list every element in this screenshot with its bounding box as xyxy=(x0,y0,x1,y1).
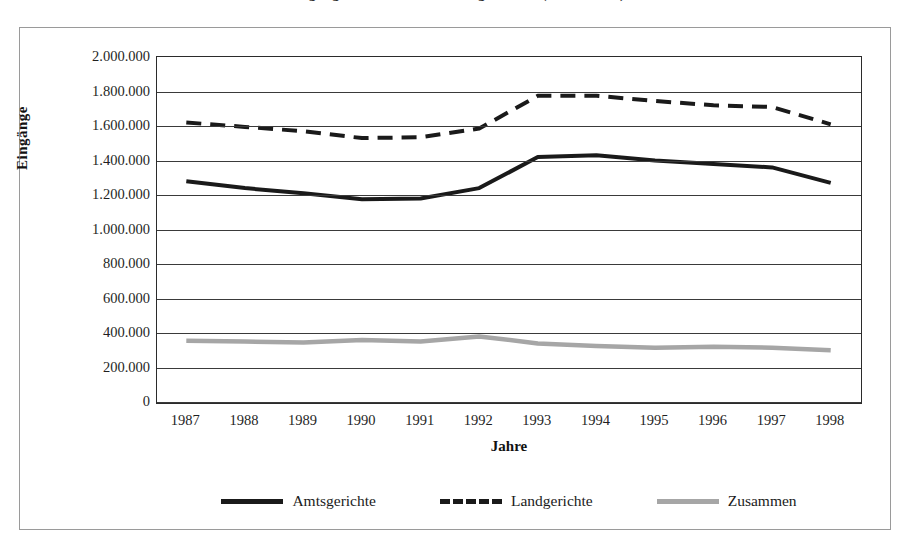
y-tick-mark xyxy=(200,229,207,230)
y-tick-label: 1.600.000 xyxy=(54,118,150,132)
y-axis-labels: 2.000.0001.800.0001.600.0001.400.0001.20… xyxy=(50,56,150,404)
page-title: Eingänge bei Amts- und Landgerichten (Zi… xyxy=(0,0,911,2)
legend-label: Zusammen xyxy=(728,493,797,509)
y-tick-mark xyxy=(200,160,207,161)
y-tick-mark xyxy=(200,194,207,195)
y-axis-title: Eingänge xyxy=(14,106,31,170)
y-tick-mark xyxy=(200,125,207,126)
y-tick-label: 1.200.000 xyxy=(54,187,150,201)
y-tick-mark xyxy=(200,263,207,264)
chart-legend: AmtsgerichteLandgerichteZusammen xyxy=(156,488,862,514)
y-tick-label: 200.000 xyxy=(54,360,150,374)
y-tick-label: 2.000.000 xyxy=(54,49,150,63)
legend-swatch-icon xyxy=(221,499,283,504)
legend-item[interactable]: Zusammen xyxy=(657,493,797,509)
y-tick-label: 600.000 xyxy=(54,291,150,305)
x-tick-label: 1998 xyxy=(795,412,865,429)
y-tick-label: 1.800.000 xyxy=(54,84,150,98)
y-tick-mark xyxy=(200,367,207,368)
y-tick-mark xyxy=(200,298,207,299)
x-axis-title: Jahre xyxy=(156,438,862,455)
y-tick-label: 0 xyxy=(54,394,150,408)
legend-swatch-icon xyxy=(657,499,719,504)
y-tick-mark xyxy=(200,91,207,92)
y-tick-mark xyxy=(200,332,207,333)
legend-label: Landgerichte xyxy=(511,493,593,509)
y-tick-label: 400.000 xyxy=(54,325,150,339)
y-tick-label: 1.000.000 xyxy=(54,222,150,236)
legend-item[interactable]: Amtsgerichte xyxy=(221,493,376,509)
y-tick-label: 1.400.000 xyxy=(54,153,150,167)
x-axis-labels: 1987198819891990199119921993199419951996… xyxy=(156,412,862,436)
legend-item[interactable]: Landgerichte xyxy=(440,493,593,509)
legend-label: Amtsgerichte xyxy=(292,493,376,509)
chart-title-clipped: Eingänge bei Amts- und Landgerichten (Zi… xyxy=(0,0,911,14)
y-tick-mark xyxy=(200,401,207,402)
y-tick-label: 800.000 xyxy=(54,256,150,270)
legend-swatch-icon xyxy=(440,499,502,504)
